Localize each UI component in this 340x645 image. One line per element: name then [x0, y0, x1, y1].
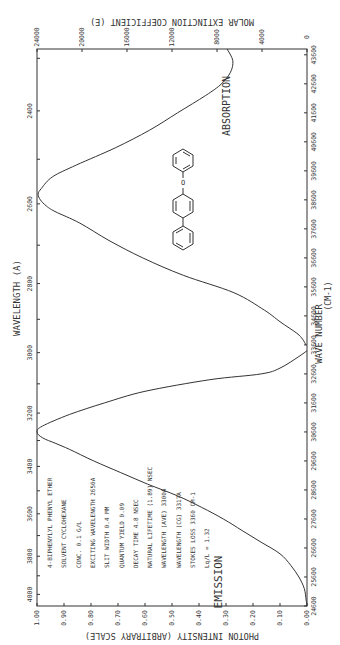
wavenumber-tick-label: 35600 — [310, 277, 318, 297]
spectrum-chart: 2460025600266002760028600296003060031600… — [0, 0, 340, 645]
wavenumber-tick-label: 25600 — [310, 567, 318, 587]
wavelength-tick-label: 3000 — [26, 345, 34, 361]
wavenumber-axis-unit: (CM-1) — [324, 282, 333, 311]
info-line: SOLVENT CYCLOHEXANE — [60, 499, 67, 568]
wavelength-tick-label: 3200 — [26, 405, 34, 421]
intensity-tick-label: 1.00 — [33, 610, 41, 626]
info-line: NATURAL LIFETIME (1.89) NSEC — [146, 466, 153, 568]
absorption-curve — [38, 49, 306, 345]
intensity-tick-label: 0.80 — [87, 610, 95, 626]
extinction-tick-label: 4000 — [258, 29, 266, 45]
wavelength-tick-label: 4000 — [26, 586, 34, 602]
wavenumber-tick-label: 37600 — [310, 219, 318, 239]
extinction-tick-label: 8000 — [213, 29, 221, 45]
intensity-tick-label: 0.60 — [141, 610, 149, 626]
axis-tick-labels: 2460025600266002760028600296003060031600… — [26, 27, 318, 626]
wavenumber-tick-label: 43600 — [310, 45, 318, 65]
wavenumber-tick-label: 31600 — [310, 393, 318, 413]
wavenumber-tick-label: 42600 — [310, 74, 318, 94]
info-line: Lq/L = 1.32 — [203, 528, 211, 568]
wavenumber-axis-title: WAVE NUMBER — [314, 304, 324, 364]
emission-label: EMISSION — [212, 556, 225, 609]
info-line: QUANTUM YIELD 0.09 — [118, 503, 125, 568]
wavenumber-tick-label: 32600 — [310, 364, 318, 384]
wavelength-tick-label: 2800 — [26, 276, 34, 292]
info-line: WAVELENGTH (CG) 3317A — [175, 492, 182, 568]
wavenumber-tick-label: 41600 — [310, 103, 318, 123]
intensity-tick-label: 0.30 — [222, 610, 230, 626]
wavenumber-tick-label: 27600 — [310, 509, 318, 529]
wavenumber-tick-label: 40600 — [310, 132, 318, 152]
extinction-tick-label: 24000 — [33, 27, 41, 47]
extinction-tick-label: 12000 — [168, 27, 176, 47]
top-axis-title: MOLAR EXTINCTION COEFFICIENT (E) — [90, 17, 254, 27]
absorption-label: ABSORPTION — [221, 76, 232, 136]
info-line: 4-BIPHENYLYL PHENYL ETHER — [46, 477, 53, 568]
bottom-axis-title: PHOTON INTENSITY (ARBITRARY SCALE) — [85, 631, 259, 641]
intensity-tick-label: 0.40 — [195, 610, 203, 626]
extinction-tick-label: 0 — [303, 35, 311, 39]
info-line: DECAY TIME 4.8 NSEC — [132, 499, 139, 568]
intensity-tick-label: 0.20 — [249, 610, 257, 626]
svg-text:O: O — [181, 179, 185, 187]
wavelength-tick-label: 3400 — [26, 458, 34, 474]
info-line: WAVELENGTH (AVE) 3300A — [160, 488, 167, 568]
wavenumber-tick-label: 38600 — [310, 190, 318, 210]
extinction-tick-label: 20000 — [78, 27, 86, 47]
wavenumber-tick-label: 24600 — [310, 596, 318, 616]
wavenumber-tick-label: 36600 — [310, 248, 318, 268]
intensity-tick-label: 0.90 — [60, 610, 68, 626]
wavenumber-tick-label: 26600 — [310, 538, 318, 558]
wavenumber-tick-label: 39600 — [310, 161, 318, 181]
info-line: EXCITING WAVELENGTH 2650A — [89, 477, 96, 568]
extinction-tick-label: 16000 — [123, 27, 131, 47]
info-line: CONC. 0.1 G/L — [75, 521, 82, 568]
info-line: STOKES LOSS 3360 CM-1 — [189, 492, 196, 568]
intensity-tick-label: 0.50 — [168, 610, 176, 626]
molecule-structure-icon: O — [173, 149, 193, 250]
wavelength-tick-label: 2400 — [26, 103, 34, 119]
wavelength-axis-title: WAVELENGTH (A) — [12, 260, 22, 336]
wavenumber-tick-label: 30600 — [310, 422, 318, 442]
wavelength-tick-label: 3600 — [26, 506, 34, 522]
intensity-tick-label: 0.10 — [276, 610, 284, 626]
wavenumber-tick-label: 28600 — [310, 480, 318, 500]
wavelength-tick-label: 2600 — [26, 196, 34, 212]
info-line: SLIT WIDTH 0.4 MM — [103, 506, 110, 568]
intensity-tick-label: 0.70 — [114, 610, 122, 626]
intensity-tick-label: 0.00 — [303, 610, 311, 626]
wavenumber-tick-label: 29600 — [310, 451, 318, 471]
wavelength-tick-label: 3800 — [26, 548, 34, 564]
experiment-info: 4-BIPHENYLYL PHENYL ETHERSOLVENT CYCLOHE… — [46, 466, 211, 568]
